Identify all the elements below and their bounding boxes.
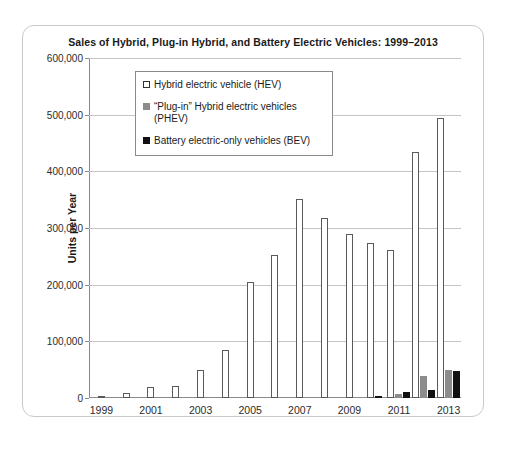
y-tick-mark (85, 398, 89, 399)
bar-group (89, 58, 114, 398)
bar-hev-2008 (321, 218, 328, 398)
bar-hev-2000 (123, 393, 130, 398)
bar-group (436, 58, 461, 398)
bar-hev-2010 (367, 243, 374, 398)
legend-item-phev: “Plug-in” Hybrid electric vehicles (PHEV… (143, 101, 324, 126)
x-tick-label: 1999 (90, 404, 113, 416)
bev-swatch-icon (143, 137, 150, 144)
x-tick-label: 2001 (139, 404, 162, 416)
bar-phev-2011 (395, 394, 402, 398)
bar-hev-2001 (147, 387, 154, 398)
bar-hev-2005 (247, 282, 254, 398)
y-tick-label: 0 (77, 393, 83, 404)
legend-item-label: Battery electric-only vehicles (BEV) (154, 135, 310, 148)
bar-group (387, 58, 412, 398)
y-tick-label: 600,000 (47, 53, 83, 64)
bar-bev-2010 (375, 396, 382, 398)
legend-item-label: “Plug-in” Hybrid electric vehicles (PHEV… (154, 101, 324, 126)
bar-hev-2007 (296, 199, 303, 398)
legend-item-hev: Hybrid electric vehicle (HEV) (143, 79, 324, 92)
chart-figure: Sales of Hybrid, Plug-in Hybrid, and Bat… (22, 25, 484, 417)
x-tick-label: 2011 (388, 404, 411, 416)
y-tick-label: 100,000 (47, 336, 83, 347)
bar-hev-2003 (197, 370, 204, 398)
bar-hev-2006 (271, 255, 278, 398)
bar-hev-2002 (172, 386, 179, 398)
bar-bev-2011 (403, 392, 410, 398)
bar-bev-2013 (453, 371, 460, 398)
bar-hev-1999 (98, 396, 105, 398)
bar-group (411, 58, 436, 398)
x-tick-label: 2003 (189, 404, 212, 416)
x-tick-label: 2005 (239, 404, 262, 416)
x-tick-label: 2013 (437, 404, 460, 416)
legend-item-label: Hybrid electric vehicle (HEV) (154, 79, 281, 92)
bar-hev-2009 (346, 234, 353, 398)
bar-group (337, 58, 362, 398)
bar-hev-2011 (387, 250, 394, 398)
phev-swatch-icon (143, 103, 150, 110)
bar-phev-2012 (420, 376, 427, 398)
y-tick-label: 500,000 (47, 109, 83, 120)
y-tick-label: 200,000 (47, 279, 83, 290)
y-tick-label: 300,000 (47, 223, 83, 234)
bar-hev-2012 (412, 152, 419, 398)
bar-phev-2013 (445, 370, 452, 398)
hev-swatch-icon (143, 81, 150, 88)
bar-hev-2013 (437, 118, 444, 399)
chart-title: Sales of Hybrid, Plug-in Hybrid, and Bat… (23, 36, 483, 48)
x-tick-label: 2007 (288, 404, 311, 416)
y-tick-label: 400,000 (47, 166, 83, 177)
bar-bev-2012 (428, 390, 435, 398)
chart-legend: Hybrid electric vehicle (HEV)“Plug-in” H… (135, 71, 333, 156)
x-tick-label: 2009 (338, 404, 361, 416)
bar-group (362, 58, 387, 398)
bar-hev-2004 (222, 350, 229, 398)
legend-item-bev: Battery electric-only vehicles (BEV) (143, 135, 324, 148)
